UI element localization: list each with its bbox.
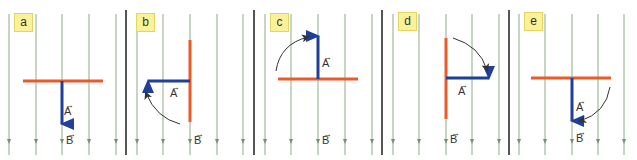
panel-d-rotation-arrow	[453, 38, 487, 70]
panel-e-vector-a-label: →A	[576, 102, 583, 113]
panel-a-vector-a-label: →A	[64, 106, 71, 117]
panel-c-rotation-arrow	[276, 37, 308, 71]
panel-c-label: c	[270, 13, 289, 32]
panel-b-label: b	[136, 13, 155, 32]
panel-a-label: a	[14, 13, 33, 32]
panel-a-field-b-label: →B	[66, 135, 73, 146]
panel-c-vector-a-label: →A	[322, 58, 329, 69]
panel-d-label: d	[398, 12, 417, 31]
panel-b-vector-a-label: →A	[170, 88, 177, 99]
panel-c-field-b-label: →B	[322, 135, 329, 146]
panel-e-label: e	[524, 12, 543, 31]
panel-d-vector-a-label: →A	[458, 86, 465, 97]
panel-c-field-lines	[263, 14, 374, 155]
panel-e-field-b-label: →B	[576, 133, 583, 144]
magnetic-field-diagram: a b c d e →A →A →A →A →A →B →B →B →B →B	[0, 0, 637, 160]
panel-d-field-b-label: →B	[450, 134, 457, 145]
panel-b-field-b-label: →B	[194, 135, 201, 146]
